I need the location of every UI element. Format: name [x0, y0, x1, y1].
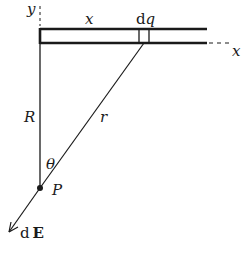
x-distance-label: x — [85, 10, 94, 28]
theta-label: θ — [46, 155, 55, 173]
y-axis-label: y — [26, 0, 36, 18]
distance-r-line — [40, 43, 144, 188]
dE-label: dE — [20, 224, 44, 242]
point-P-dot — [37, 185, 43, 191]
R-label: R — [23, 108, 35, 126]
diagram-canvas: y x x dq R r θ P dE — [0, 0, 251, 255]
P-label: P — [51, 181, 63, 199]
r-label: r — [100, 108, 108, 126]
dq-label: dq — [136, 10, 155, 28]
charged-rod-diagram: y x x dq R r θ P dE — [0, 0, 251, 255]
x-axis-label: x — [232, 42, 241, 60]
